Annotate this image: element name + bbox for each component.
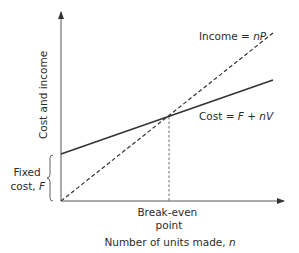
x-axis-label: Number of units made, n [104, 236, 235, 248]
break-even-label: Break-even point [137, 206, 200, 231]
y-axis-label: Cost and income [37, 51, 49, 139]
fixed-cost-label: Fixed cost, F [10, 166, 45, 192]
cost-line-label: Cost = F + nV [199, 110, 274, 122]
income-line-label: Income = nP [199, 30, 267, 42]
fixed-cost-brace [47, 155, 53, 201]
break-even-diagram: Cost and income Income = nP Cost = F + n… [0, 0, 299, 253]
